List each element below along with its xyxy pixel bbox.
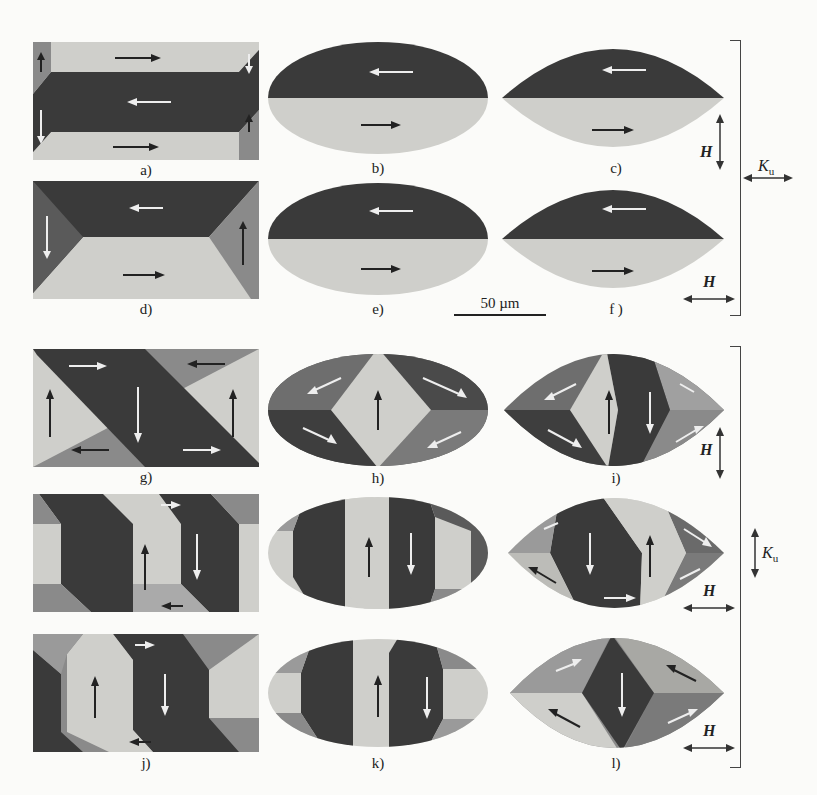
anisotropy-axis-vertical-icon xyxy=(749,528,761,578)
panel-l-upper xyxy=(500,493,726,613)
domain-pattern-c xyxy=(500,40,726,160)
panel-label-j: j) xyxy=(126,755,166,772)
field-label-i: H xyxy=(700,441,712,459)
field-arrow-vertical-icon xyxy=(714,114,726,170)
panel-j-upper xyxy=(33,494,259,612)
field-arrow-horizontal-icon-3 xyxy=(683,742,735,754)
field-label-l: H xyxy=(703,722,715,740)
anisotropy-symbol-2: K xyxy=(762,544,773,561)
group-bracket-top xyxy=(730,40,741,316)
field-arrow-horizontal-icon xyxy=(683,293,735,305)
field-label-l-upper: H xyxy=(703,582,715,600)
group-bracket-bottom xyxy=(730,346,741,768)
domain-pattern-k xyxy=(265,633,491,753)
scale-bar-label: 50 µm xyxy=(454,295,546,312)
domain-pattern-f xyxy=(500,181,726,301)
panel-label-f: f ) xyxy=(596,301,636,318)
panel-label-d: d) xyxy=(126,301,166,318)
domain-pattern-h xyxy=(265,348,491,468)
panel-i: i) xyxy=(500,348,726,468)
anisotropy-label-bottom: Ku xyxy=(762,544,778,564)
scale-bar: 50 µm xyxy=(454,295,546,316)
field-label-f: H xyxy=(703,273,715,291)
panel-f: f ) xyxy=(500,181,726,301)
panel-label-e: e) xyxy=(358,301,398,318)
panel-label-g: g) xyxy=(126,469,166,486)
domain-pattern-i xyxy=(500,348,726,468)
panel-label-l: l) xyxy=(596,755,636,772)
panel-label-a: a) xyxy=(126,162,166,179)
domain-pattern-b xyxy=(265,40,491,160)
panel-b: b) xyxy=(265,40,491,160)
anisotropy-subscript-2: u xyxy=(773,552,779,564)
domain-pattern-e xyxy=(265,181,491,301)
panel-a: a) xyxy=(33,42,259,160)
panel-label-k: k) xyxy=(358,755,398,772)
domain-pattern-j xyxy=(33,634,259,752)
panel-k-upper xyxy=(265,493,491,613)
domain-pattern-l-upper xyxy=(500,493,726,613)
domain-pattern-g xyxy=(33,349,259,467)
scale-bar-line xyxy=(454,314,546,316)
panel-l: l) xyxy=(500,633,726,753)
panel-g: g) xyxy=(33,349,259,467)
domain-pattern-k-upper xyxy=(265,493,491,613)
panel-k: k) xyxy=(265,633,491,753)
field-arrow-horizontal-icon-2 xyxy=(683,602,735,614)
panel-e: e) xyxy=(265,181,491,301)
panel-label-i: i) xyxy=(596,470,636,487)
domain-pattern-l xyxy=(500,633,726,753)
domain-pattern-d xyxy=(33,181,259,299)
domain-pattern-j-upper xyxy=(33,494,259,612)
panel-label-h: h) xyxy=(358,470,398,487)
panel-d: d) xyxy=(33,181,259,299)
panel-c: c) xyxy=(500,40,726,160)
anisotropy-axis-horizontal-icon xyxy=(743,172,793,184)
panel-label-c: c) xyxy=(596,160,636,177)
panel-h: h) xyxy=(265,348,491,468)
field-arrow-vertical-icon-2 xyxy=(714,427,726,479)
panel-label-b: b) xyxy=(358,160,398,177)
field-label-c: H xyxy=(700,143,712,161)
domain-pattern-a xyxy=(33,42,259,160)
panel-j: j) xyxy=(33,634,259,752)
